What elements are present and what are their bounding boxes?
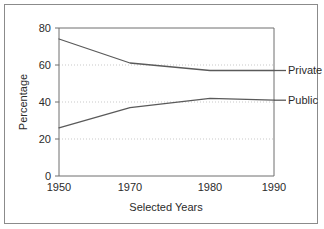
gridlines [59,65,274,139]
x-axis-title: Selected Years [129,201,203,213]
y-tick-label-40: 40 [39,96,51,108]
y-tick-label-60: 60 [39,59,51,71]
y-tick-label-80: 80 [39,22,51,34]
x-tick-label-1980: 1980 [198,181,222,193]
x-tick-label-1970: 1970 [118,181,142,193]
line-chart: 0 20 40 60 80 1950 1970 1980 1990 Privat… [0,0,324,229]
y-tick-marks [55,28,59,176]
series-line-public [59,98,274,128]
x-tick-labels: 1950 1970 1980 1990 [47,181,286,193]
series-line-private [59,39,274,71]
chart-figure: 0 20 40 60 80 1950 1970 1980 1990 Privat… [0,0,324,229]
y-axis-title: Percentage [17,74,29,130]
x-tick-label-1950: 1950 [47,181,71,193]
y-tick-labels: 0 20 40 60 80 [39,22,51,182]
y-tick-label-20: 20 [39,133,51,145]
x-tick-label-1990: 1990 [262,181,286,193]
series-label-public: Public [288,94,318,106]
series-label-private: Private [288,64,322,76]
